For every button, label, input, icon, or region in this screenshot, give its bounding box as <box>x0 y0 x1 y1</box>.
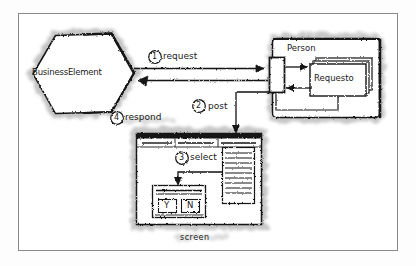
dialog-button-no[interactable]: N <box>187 201 193 210</box>
business-element-label: BusinessElement <box>32 68 102 77</box>
diagram-canvas: BusinessElement Person Requesto screen 1… <box>0 0 416 266</box>
message-label-respond: respond <box>125 113 161 122</box>
message-number-2: 2 <box>196 102 201 110</box>
message-number-4: 4 <box>114 114 119 122</box>
list-panel[interactable] <box>223 148 255 204</box>
message-label-select: select <box>190 153 217 162</box>
ink-layer <box>0 0 416 266</box>
message-number-3: 3 <box>179 154 184 162</box>
respond-arrow <box>138 76 268 86</box>
dialog-box[interactable] <box>153 186 206 218</box>
screen-label: screen <box>180 234 210 242</box>
dialog-button-yes[interactable]: Y <box>164 201 169 210</box>
message-label-post: post <box>208 102 227 111</box>
port-node[interactable] <box>270 58 285 93</box>
message-label-request: request <box>163 52 197 61</box>
requestor-label: Requesto <box>314 74 354 83</box>
message-number-1: 1 <box>152 53 157 61</box>
person-label: Person <box>287 44 316 53</box>
post-arrow <box>232 92 269 134</box>
request-arrow <box>134 65 264 72</box>
